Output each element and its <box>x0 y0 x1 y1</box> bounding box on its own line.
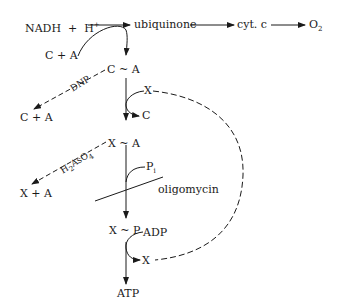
oligomycin-bar <box>95 177 163 201</box>
node-adp: ADP <box>143 227 167 239</box>
node-x-out: X <box>142 255 150 267</box>
node-x-plus-a: X + A <box>20 188 52 200</box>
node-x-tilde-a: X ~ A <box>108 138 140 150</box>
node-c-plus-a-left: C + A <box>20 112 53 124</box>
nadh-text: NADH <box>25 22 61 35</box>
oligomycin-label: oligomycin <box>158 184 219 196</box>
ubiquinone-label: ubiquinone <box>134 19 197 31</box>
cytc-label: cyt. c <box>237 19 267 31</box>
plus-sign: + <box>68 22 77 35</box>
diagram-canvas: NADH + H+ ubiquinone cyt. c O2 C + A C ~… <box>0 0 342 306</box>
node-atp: ATP <box>117 288 139 300</box>
pathway-lines <box>0 0 342 306</box>
h-superscript: + <box>94 21 100 29</box>
pi-subscript: i <box>153 167 155 175</box>
node-x-in: X <box>144 85 152 97</box>
curve-pi-in <box>126 167 145 182</box>
node-c-plus-a-top: C + A <box>45 50 78 62</box>
nadh-label: NADH + H+ <box>25 19 100 35</box>
o2-subscript: 2 <box>318 25 322 33</box>
o2-label: O2 <box>309 19 323 35</box>
node-c-out: C <box>142 110 150 122</box>
node-c-tilde-a: C ~ A <box>107 64 140 76</box>
arrow-dnp <box>34 70 105 109</box>
h-text: H <box>84 22 94 35</box>
o2-text: O <box>309 18 318 31</box>
node-pi: Pi <box>146 161 156 177</box>
node-x-tilde-p: X ~ P <box>109 225 140 237</box>
